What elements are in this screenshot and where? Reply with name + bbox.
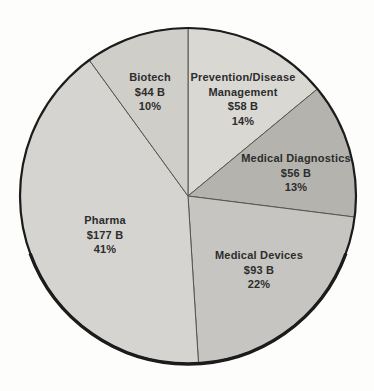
pie-chart: Prevention/DiseaseManagement$58 B14%Medi… (0, 0, 374, 391)
pie-slice-medical-devices (188, 196, 355, 364)
chart-page: Prevention/DiseaseManagement$58 B14%Medi… (0, 0, 374, 391)
